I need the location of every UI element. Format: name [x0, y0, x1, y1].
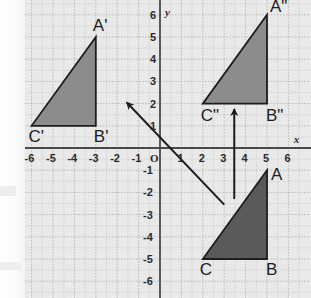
x-tick-label-neg5: -5 — [46, 153, 56, 164]
y-tick-label-neg1: -1 — [143, 165, 153, 176]
grid-plot-area — [25, 0, 311, 298]
paper-smudge-lower — [0, 262, 22, 270]
y-tick-label-4: 4 — [150, 54, 156, 65]
vertex-label-a: A — [271, 166, 282, 183]
x-tick-label-1: 1 — [177, 153, 183, 164]
major-gridlines — [25, 0, 311, 298]
vertex-label-c-dprime: C" — [201, 107, 219, 124]
origin-label: O — [150, 152, 159, 164]
minor-gridlines — [25, 0, 311, 298]
y-tick-label-3: 3 — [150, 76, 156, 87]
vertex-label-a-dprime: A" — [270, 0, 287, 15]
y-tick-label-neg6: -6 — [143, 276, 153, 287]
vertex-label-a-prime: A' — [93, 17, 108, 34]
vertex-label-c: C — [200, 261, 212, 278]
x-axis-label: x — [294, 134, 300, 145]
y-tick-label-2: 2 — [150, 99, 156, 110]
y-axis-label: y — [165, 7, 170, 18]
vertex-label-b: B — [266, 261, 277, 278]
x-tick-label-neg1: -1 — [132, 153, 142, 164]
paper-left-margin — [0, 0, 26, 298]
y-tick-label-neg3: -3 — [143, 210, 153, 221]
x-tick-label-neg6: -6 — [25, 153, 35, 164]
y-tick-label-1: 1 — [150, 121, 156, 132]
y-tick-label-neg5: -5 — [143, 254, 153, 265]
y-tick-label-5: 5 — [150, 32, 156, 43]
vertex-label-b-dprime: B" — [266, 107, 283, 124]
paper-smudge-upper — [0, 186, 16, 196]
x-tick-label-neg3: -3 — [89, 153, 99, 164]
x-tick-label-3: 3 — [220, 153, 226, 164]
y-tick-label-neg4: -4 — [143, 232, 153, 243]
x-tick-label-neg4: -4 — [67, 153, 77, 164]
x-tick-label-4: 4 — [242, 153, 248, 164]
y-tick-label-neg2: -2 — [143, 187, 153, 198]
coordinate-plane-figure: -6-5-4-3-2-1123456654321-1-2-3-4-5-6xyOA… — [0, 0, 311, 298]
coordinate-grid-svg — [25, 0, 311, 298]
x-tick-label-6: 6 — [284, 153, 290, 164]
vertex-label-c-prime: C' — [29, 128, 45, 145]
x-tick-label-neg2: -2 — [110, 153, 120, 164]
vertex-label-b-prime: B' — [94, 128, 109, 145]
y-tick-label-6: 6 — [150, 10, 156, 21]
x-tick-label-2: 2 — [199, 153, 205, 164]
x-tick-label-5: 5 — [263, 153, 269, 164]
